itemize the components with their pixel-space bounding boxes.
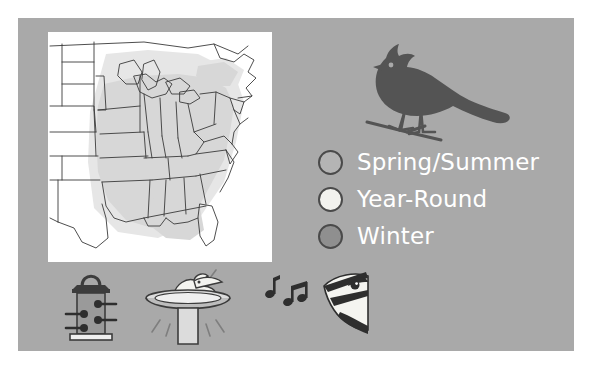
circle-swatch-icon [318, 187, 343, 212]
page-root: Spring/Summer Year-Round Winter [0, 0, 593, 370]
birdbath-icon [136, 268, 240, 346]
singing-bird-icon [258, 268, 370, 340]
tube-bird-feeder-icon [58, 268, 124, 346]
legend-item-year-round[interactable]: Year-Round [318, 181, 568, 218]
range-legend: Spring/Summer Year-Round Winter [318, 144, 568, 255]
circle-swatch-icon [318, 150, 343, 175]
legend-label-year-round: Year-Round [357, 188, 487, 211]
range-map [48, 32, 272, 262]
crested-bird-silhouette-icon [355, 40, 515, 152]
legend-item-spring-summer[interactable]: Spring/Summer [318, 144, 568, 181]
legend-label-spring-summer: Spring/Summer [357, 151, 539, 174]
circle-swatch-icon [318, 224, 343, 249]
legend-item-winter[interactable]: Winter [318, 218, 568, 255]
legend-label-winter: Winter [357, 225, 434, 248]
species-info-panel: Spring/Summer Year-Round Winter [18, 18, 574, 351]
attractant-icon-strip [44, 268, 374, 346]
